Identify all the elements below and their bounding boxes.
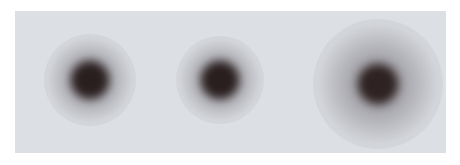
spot-2 <box>201 61 239 99</box>
image-panel <box>15 11 446 153</box>
spot-1 <box>71 61 109 99</box>
spot-3 <box>358 64 398 104</box>
